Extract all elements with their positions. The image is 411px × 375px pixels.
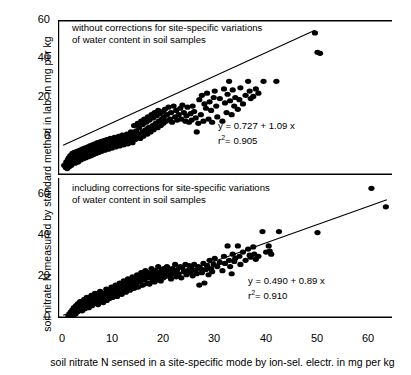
top-r-squared-value: = 0.905 [225,136,257,147]
data-point [204,91,210,96]
data-point [230,87,236,92]
bottom-ytick-60: 60 [24,187,50,199]
bottom-r-squared-value: = 0.910 [255,291,287,302]
data-point [242,93,248,98]
data-point [317,51,323,56]
data-point [383,204,389,209]
regression-line [63,200,387,315]
data-point [201,280,207,285]
bottom-r-squared: r2= 0.910 [248,287,325,303]
data-point [221,86,227,91]
data-point [190,104,196,109]
xtick-60: 60 [358,332,378,344]
top-ytick-40: 40 [24,51,50,63]
bottom-fit-equation: y = 0.490 + 0.89 x [248,275,325,287]
data-point [226,79,232,84]
data-point [229,112,235,117]
data-points [61,30,323,171]
top-fit-equation-block: y = 0.727 + 1.09 x r2= 0.905 [218,120,295,148]
data-point [219,268,225,273]
figure-container: soil nitrate N measured by standard meth… [0,0,411,375]
xtick-0: 0 [52,332,72,344]
bottom-annotation-line2: of water content in soil samples [72,194,270,206]
y-axis-title: soil nitrate N measured by standard meth… [41,19,53,349]
bottom-ytick-0: 0 [24,310,50,322]
data-point [247,88,253,93]
data-point [206,99,212,104]
data-point [255,91,261,96]
data-point [178,275,184,280]
data-point [209,120,215,125]
data-point [217,96,223,101]
bottom-ytick-20: 20 [24,269,50,281]
xtick-20: 20 [153,332,173,344]
data-point [209,269,215,274]
data-point [235,243,241,248]
top-annotation: without corrections for site-specific va… [72,22,262,47]
xtick-10: 10 [102,332,122,344]
data-point [255,254,261,259]
data-point [224,92,230,97]
top-annotation-line1: without corrections for site-specific va… [72,22,262,34]
data-point [259,229,265,234]
data-point [229,271,235,276]
top-fit-equation: y = 0.727 + 1.09 x [218,120,295,132]
bottom-annotation: including corrections for site-specific … [72,182,270,207]
data-point [193,115,199,120]
data-point [226,258,232,263]
data-point [236,97,242,102]
xtick-40: 40 [256,332,276,344]
data-point [212,88,218,93]
data-point [260,79,266,84]
data-point [224,243,230,248]
data-point [213,104,219,109]
top-r-squared: r2= 0.905 [218,132,295,148]
data-point [227,264,233,269]
x-axis-title: soil nitrate N sensed in a site-specific… [40,356,405,368]
top-ytick-0: 0 [24,129,50,141]
bottom-fit-equation-block: y = 0.490 + 0.89 x r2= 0.910 [248,275,325,303]
top-ytick-20: 20 [24,90,50,102]
data-point [250,94,256,99]
data-point [235,107,241,112]
data-point [245,79,251,84]
data-point [237,85,243,90]
xtick-30: 30 [204,332,224,344]
top-ytick-60: 60 [24,13,50,25]
data-point [314,230,320,235]
data-point [194,271,200,276]
bottom-annotation-line1: including corrections for site-specific … [72,182,270,194]
xtick-50: 50 [307,332,327,344]
data-point [227,98,233,103]
data-point [368,186,374,191]
data-point [276,229,282,234]
data-point [211,95,217,100]
data-point [240,101,246,106]
data-point [191,109,197,114]
top-annotation-line2: of water content in soil samples [72,34,262,46]
data-point [266,243,272,248]
bottom-ytick-40: 40 [24,228,50,240]
data-point [237,262,243,267]
data-point [214,114,220,119]
data-point [194,129,200,134]
data-point [208,108,214,113]
data-point [198,112,204,117]
data-point [268,252,274,257]
data-point [242,258,248,263]
data-point [273,79,279,84]
